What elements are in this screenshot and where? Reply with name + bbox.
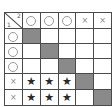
diagonal-cell	[40, 44, 58, 59]
cell	[58, 29, 76, 44]
diagonal-cell	[58, 59, 76, 74]
diagonal-cell	[94, 90, 112, 106]
corner-cell: 2 1	[5, 13, 23, 29]
diagonal-cell	[76, 74, 94, 90]
col-header-4: ×	[76, 13, 94, 29]
row-header-3	[5, 59, 23, 74]
cell	[94, 44, 112, 59]
star-icon: ★	[26, 75, 36, 88]
star-cell: ★	[22, 74, 40, 90]
col-header-5: ×	[94, 13, 112, 29]
matrix-row-2	[5, 44, 112, 59]
circle-icon	[26, 16, 36, 26]
matrix-row-4: × ★ ★ ★	[5, 74, 112, 90]
col-header-2	[40, 13, 58, 29]
corner-label-2: 2	[17, 13, 21, 24]
circle-icon	[8, 62, 18, 72]
cell	[58, 44, 76, 59]
circle-icon	[8, 47, 18, 57]
cell	[76, 44, 94, 59]
header-row: 2 1 × ×	[5, 13, 112, 29]
cross-icon: ×	[99, 16, 106, 25]
circle-icon	[62, 16, 72, 26]
star-cell: ★	[22, 90, 40, 106]
matrix-row-5: × ★ ★ ★	[5, 90, 112, 106]
cross-icon: ×	[10, 77, 17, 86]
row-header-4: ×	[5, 74, 23, 90]
cell	[94, 59, 112, 74]
cross-icon: ×	[10, 93, 17, 102]
star-cell: ★	[40, 74, 58, 90]
comparison-matrix: 2 1 × × × ★ ★ ★	[4, 12, 112, 106]
cell	[76, 90, 94, 106]
corner-label-1: 1	[7, 18, 11, 29]
cross-icon: ×	[81, 16, 88, 25]
row-header-5: ×	[5, 90, 23, 106]
star-icon: ★	[44, 91, 54, 104]
cell	[94, 29, 112, 44]
cell	[76, 29, 94, 44]
star-icon: ★	[62, 75, 72, 88]
circle-icon	[8, 32, 18, 42]
cell	[22, 44, 40, 59]
star-icon: ★	[62, 91, 72, 104]
row-header-2	[5, 44, 23, 59]
circle-icon	[44, 16, 54, 26]
col-header-3	[58, 13, 76, 29]
col-header-1	[22, 13, 40, 29]
cell	[76, 59, 94, 74]
star-icon: ★	[26, 91, 36, 104]
star-cell: ★	[58, 74, 76, 90]
row-header-1	[5, 29, 23, 44]
matrix-row-1	[5, 29, 112, 44]
star-icon: ★	[44, 75, 54, 88]
cell	[40, 29, 58, 44]
cell	[94, 74, 112, 90]
cell	[40, 59, 58, 74]
matrix-row-3	[5, 59, 112, 74]
diagonal-cell	[22, 29, 40, 44]
cell	[22, 59, 40, 74]
star-cell: ★	[40, 90, 58, 106]
star-cell: ★	[58, 90, 76, 106]
